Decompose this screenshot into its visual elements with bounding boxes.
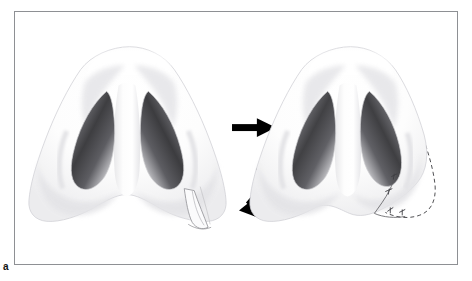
- suture-mark: [399, 209, 405, 215]
- figure-caption: [0, 0, 1, 1]
- post-operative-nose: [250, 47, 435, 222]
- panel-label: a: [3, 262, 9, 272]
- suture-base-line: [374, 213, 405, 217]
- pre-operative-nose: [29, 47, 226, 229]
- figure-panel: [14, 11, 458, 265]
- columella-right-nose: [335, 82, 361, 196]
- figure-root: a: [0, 0, 472, 281]
- columella-left-nose: [114, 82, 140, 196]
- nose-diagram-canvas: [15, 12, 457, 264]
